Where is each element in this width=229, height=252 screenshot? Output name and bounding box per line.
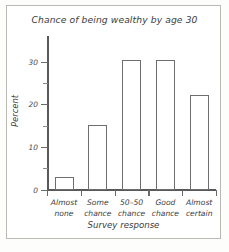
x-category-label-4-line-1: Almost [173,198,225,209]
y-tick-label-10: 10 [14,143,38,152]
y-tick-label-30: 30 [14,58,38,67]
x-category-label-4-line-2: certain [173,209,225,220]
plot-area: 0 10 20 30 Almost none Some chance [0,0,229,252]
bar-good-chance [156,60,175,190]
y-tick-label-0: 0 [14,186,38,195]
bar-almost-certain [190,95,209,190]
x-tick-1 [81,190,82,196]
y-tick-minor-5 [43,168,48,169]
x-axis-title: Survey response [0,220,229,230]
y-tick-minor-15 [43,126,48,127]
y-axis-line [47,36,49,190]
y-tick-minor-25 [43,83,48,84]
y-tick-10 [41,147,48,148]
x-tick-4 [182,190,183,196]
bar-50-50-chance [122,60,141,190]
x-tick-3 [148,190,149,196]
x-tick-2 [115,190,116,196]
x-category-label-4: Almost certain [173,198,225,219]
bar-some-chance [88,125,107,190]
y-tick-30 [41,62,48,63]
y-tick-20 [41,104,48,105]
x-tick-5 [216,190,217,196]
chart-figure: Chance of being wealthy by age 30 0 10 2… [0,0,229,252]
x-tick-0 [47,190,48,196]
bar-almost-none [55,177,74,190]
y-axis-title: Percent [10,85,20,137]
